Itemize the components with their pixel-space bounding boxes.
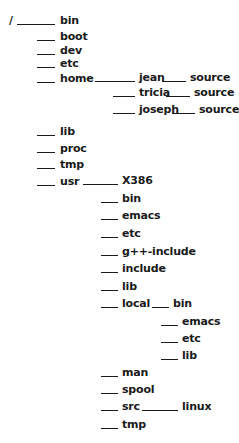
tree-edge-usr-local-bin	[152, 307, 169, 308]
tree-node-tmp: tmp	[60, 159, 84, 171]
tree-edge-usr-lib	[101, 290, 118, 291]
tree-edge-usr-X386	[83, 184, 118, 185]
tree-node-usr-src: src	[122, 401, 140, 413]
tree-node-usr-emacs: emacs	[122, 210, 160, 222]
tree-node-home-jean-source: source	[190, 72, 230, 84]
tree-node-boot: boot	[60, 31, 87, 43]
directory-tree-diagram: /binbootdevetchomejeansourcetriciasource…	[0, 0, 239, 443]
tree-edge-home-tricia-source	[166, 96, 190, 97]
tree-edge-usr-emacs	[101, 219, 118, 220]
tree-node-etc: etc	[60, 58, 79, 70]
tree-node-usr-lib: lib	[122, 281, 137, 293]
tree-edge-home-jean	[95, 81, 135, 82]
tree-edge-home-jean-source	[162, 81, 186, 82]
tree-node-lib: lib	[60, 126, 75, 138]
tree-node-home-jean: jean	[139, 72, 165, 84]
tree-node-home-joseph-source: source	[199, 104, 239, 116]
tree-node-home-tricia-source: source	[194, 87, 234, 99]
tree-node-usr-local-etc: etc	[182, 333, 201, 345]
tree-edge-usr-man	[101, 376, 118, 377]
tree-edge-usr-g++-include	[101, 255, 118, 256]
tree-edge-home-tricia	[113, 96, 135, 97]
tree-node-usr-bin: bin	[122, 193, 141, 205]
tree-edge-home	[37, 82, 55, 83]
tree-node-proc: proc	[60, 143, 87, 155]
tree-edge-proc	[37, 152, 55, 153]
tree-node-usr-local-emacs: emacs	[182, 316, 220, 328]
tree-node-usr: usr	[60, 176, 79, 188]
tree-node-usr-g++-include: g++-include	[122, 246, 196, 258]
tree-edge-dev	[37, 54, 55, 55]
tree-edge-boot	[37, 40, 55, 41]
tree-edge-tmp	[37, 168, 55, 169]
tree-edge-usr-spool	[101, 393, 118, 394]
tree-edge-usr-local-lib	[161, 359, 178, 360]
tree-edge-home-joseph	[113, 113, 135, 114]
tree-node-usr-include: include	[122, 263, 166, 275]
tree-edge-usr-local-etc	[161, 342, 178, 343]
tree-node-root: /	[9, 15, 13, 27]
tree-node-bin: bin	[60, 15, 79, 27]
tree-node-usr-tmp: tmp	[122, 419, 146, 431]
tree-edge-etc	[37, 67, 55, 68]
tree-edge-usr-src-linux	[142, 410, 178, 411]
tree-edge-usr-include	[101, 272, 118, 273]
tree-node-usr-local-lib: lib	[182, 350, 197, 362]
tree-node-usr-local-bin: bin	[173, 298, 192, 310]
tree-edge-usr-tmp	[101, 428, 118, 429]
tree-edge-home-joseph-source	[172, 113, 195, 114]
tree-node-usr-spool: spool	[122, 384, 154, 396]
tree-edge-usr-src	[101, 410, 118, 411]
tree-node-usr-man: man	[122, 367, 148, 379]
tree-edge-usr	[37, 185, 55, 186]
tree-node-usr-local: local	[122, 298, 150, 310]
tree-node-usr-X386: X386	[122, 175, 153, 187]
tree-edge-lib	[37, 135, 55, 136]
tree-edge-usr-bin	[101, 202, 118, 203]
tree-edge-usr-etc	[101, 237, 118, 238]
tree-edge-usr-local-emacs	[161, 325, 178, 326]
tree-edge-bin	[17, 24, 55, 25]
tree-node-usr-src-linux: linux	[182, 401, 211, 413]
tree-node-home: home	[60, 73, 94, 85]
tree-edge-usr-local	[101, 307, 118, 308]
tree-node-dev: dev	[60, 45, 82, 57]
tree-node-usr-etc: etc	[122, 228, 141, 240]
